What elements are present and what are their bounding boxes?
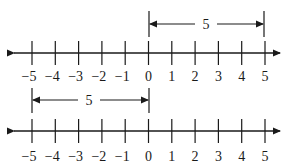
tick-label: 0	[145, 69, 152, 84]
tick-label: 5	[262, 149, 269, 164]
tick-label: −1	[115, 69, 130, 84]
tick-label: −5	[22, 69, 37, 84]
tick-label: 1	[168, 69, 175, 84]
number-line-top: −5−4−3−2−1012345 5	[14, 11, 280, 84]
tick-labels: −5−4−3−2−1012345	[22, 69, 269, 84]
tick-label: −1	[115, 149, 130, 164]
tick-labels: −5−4−3−2−1012345	[22, 149, 269, 164]
distance-bracket: 5	[149, 11, 264, 37]
distance-label: 5	[203, 17, 210, 32]
tick-label: 1	[168, 149, 175, 164]
tick-label: 2	[192, 149, 199, 164]
number-line-diagram: −5−4−3−2−1012345 5 −5−4−3−2−1012345 5	[0, 0, 287, 167]
tick-label: −5	[22, 149, 37, 164]
tick-label: 5	[262, 69, 269, 84]
tick-label: 4	[238, 149, 245, 164]
tick-label: −4	[45, 69, 60, 84]
tick-label: −2	[91, 69, 106, 84]
tick-label: 0	[145, 149, 152, 164]
tick-label: −2	[91, 149, 106, 164]
tick-label: 2	[192, 69, 199, 84]
tick-label: −3	[68, 69, 83, 84]
tick-label: 4	[238, 69, 245, 84]
tick-label: −3	[68, 149, 83, 164]
tick-label: −4	[45, 149, 60, 164]
number-line-bottom: −5−4−3−2−1012345 5	[14, 88, 280, 164]
tick-label: 3	[215, 69, 222, 84]
distance-label: 5	[86, 93, 93, 108]
tick-label: 3	[215, 149, 222, 164]
distance-bracket: 5	[32, 88, 149, 113]
